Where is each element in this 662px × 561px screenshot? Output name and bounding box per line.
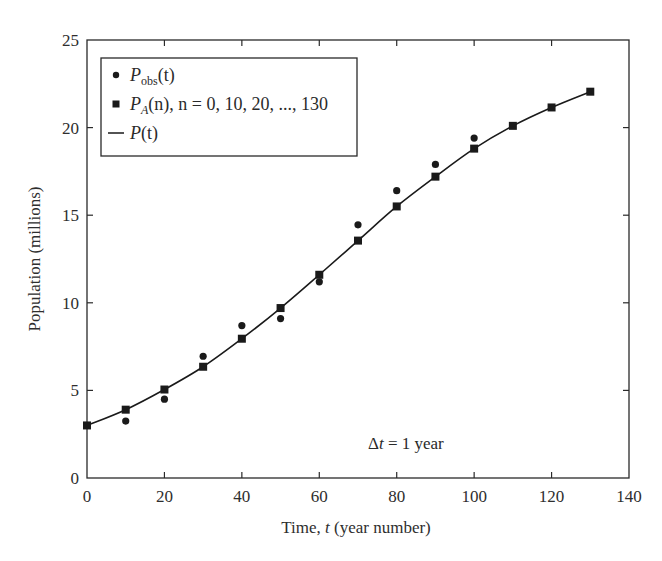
pa-square-point — [470, 145, 478, 153]
x-tick-label: 100 — [461, 487, 487, 506]
obs-circle-point — [471, 135, 478, 142]
x-tick-label: 0 — [83, 487, 92, 506]
x-tick-label: 60 — [311, 487, 328, 506]
y-tick-label: 25 — [62, 31, 79, 50]
pa-square-point — [509, 122, 517, 130]
obs-circle-point — [122, 417, 129, 424]
pa-square-point — [393, 202, 401, 210]
x-tick-label: 80 — [388, 487, 405, 506]
pa-square-point — [354, 237, 362, 245]
y-tick-label: 15 — [62, 206, 79, 225]
legend-square-marker — [113, 101, 120, 108]
delta-t-annotation: Δt = 1 year — [368, 434, 444, 453]
pa-square-point — [122, 406, 130, 414]
legend-item-p: P(t) — [129, 123, 158, 144]
pa-square-point — [238, 335, 246, 343]
x-tick-label: 40 — [233, 487, 250, 506]
x-tick-label: 120 — [539, 487, 565, 506]
y-tick-label: 10 — [62, 294, 79, 313]
obs-circle-point — [161, 396, 168, 403]
y-axis-label: Population (millions) — [25, 187, 44, 332]
obs-circle-point — [200, 353, 207, 360]
y-tick-label: 0 — [71, 469, 80, 488]
pa-square-point — [548, 103, 556, 111]
pa-square-point — [160, 386, 168, 394]
pa-square-point — [83, 421, 91, 429]
legend: Pobs(t) PA(n), n = 0, 10, 20, ..., 130 P… — [101, 58, 357, 156]
pa-square-point — [586, 88, 594, 96]
obs-circle-point — [354, 221, 361, 228]
pa-square-point — [315, 271, 323, 279]
obs-circle-point — [393, 187, 400, 194]
x-axis-label: Time, t (year number) — [281, 518, 431, 537]
obs-circle-point — [238, 322, 245, 329]
obs-circle-point — [277, 315, 284, 322]
x-tick-label: 140 — [616, 487, 642, 506]
pa-square-point — [199, 363, 207, 371]
pa-square-point — [431, 173, 439, 181]
y-tick-label: 5 — [71, 381, 80, 400]
x-tick-label: 20 — [156, 487, 173, 506]
population-chart: 0204060801001201400510152025 Pobs(t) PA(… — [0, 0, 662, 561]
obs-circle-point — [316, 278, 323, 285]
legend-item-pa: PA(n), n = 0, 10, 20, ..., 130 — [129, 94, 328, 117]
obs-circle-point — [432, 161, 439, 168]
series-obs-circles — [122, 135, 478, 425]
legend-circle-marker — [113, 72, 119, 78]
pa-square-point — [277, 304, 285, 312]
y-tick-label: 20 — [62, 119, 79, 138]
